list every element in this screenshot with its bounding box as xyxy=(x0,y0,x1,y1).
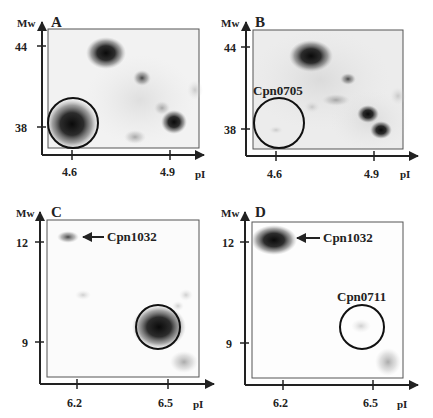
y-axis-label: Mw xyxy=(16,207,34,219)
panel-letter: B xyxy=(255,14,265,30)
panel-c: C Mw 12 9 6.2 6.5 pI Cpn1032 xyxy=(16,204,214,410)
y-axis-label: Mw xyxy=(221,207,239,219)
panel-b: B Mw 44 38 4.6 4.9 pI Cpn0705 xyxy=(221,14,418,181)
panel-letter: C xyxy=(51,204,62,220)
x-axis-label: pI xyxy=(193,398,203,410)
y-tick: 38 xyxy=(15,121,27,135)
x-axis-label: pI xyxy=(400,168,410,180)
panel-a: A Mw 44 38 4.6 4.9 pI xyxy=(15,14,205,180)
x-tick: 6.5 xyxy=(158,396,173,410)
x-axis-label: pI xyxy=(397,398,407,410)
y-tick: 44 xyxy=(224,41,236,55)
y-tick: 12 xyxy=(16,236,28,250)
x-tick: 4.9 xyxy=(364,167,379,181)
y-tick: 9 xyxy=(22,336,28,350)
protein-label: Cpn0705 xyxy=(253,83,303,98)
y-tick: 9 xyxy=(226,337,232,351)
protein-label: Cpn0711 xyxy=(337,289,386,304)
x-tick: 4.6 xyxy=(62,165,77,179)
y-tick: 38 xyxy=(224,123,236,137)
x-axis-label: pI xyxy=(195,168,205,180)
x-tick: 6.2 xyxy=(273,396,288,410)
y-axis-label: Mw xyxy=(221,17,239,29)
y-tick: 12 xyxy=(222,236,234,250)
x-tick: 4.9 xyxy=(160,165,175,179)
protein-label: Cpn1032 xyxy=(323,230,373,245)
x-tick: 6.5 xyxy=(363,396,378,410)
panel-d: D Mw 12 9 6.2 6.5 pI Cpn1032 Cpn0711 xyxy=(221,204,418,410)
2d-gel-figure: A Mw 44 38 4.6 4.9 pI B Mw 44 xyxy=(0,0,433,418)
y-axis-label: Mw xyxy=(17,17,35,29)
protein-label: Cpn1032 xyxy=(107,229,157,244)
x-tick: 6.2 xyxy=(67,396,82,410)
x-tick: 4.6 xyxy=(267,167,282,181)
y-tick: 44 xyxy=(15,40,27,54)
panel-letter: A xyxy=(51,14,62,30)
panel-letter: D xyxy=(255,204,266,220)
